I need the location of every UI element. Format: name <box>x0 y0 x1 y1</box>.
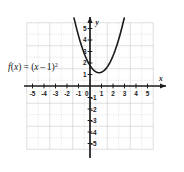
function-label-x2: x <box>33 61 39 72</box>
x-tick-label: -2 <box>64 90 70 97</box>
x-tick-label: 1 <box>100 90 104 97</box>
coordinate-plane-svg: -5 -4 -3 -2 -1 0 1 2 3 4 5 5 4 3 2 1 -1 … <box>0 0 184 172</box>
y-tick-label: -2 <box>91 106 97 113</box>
x-tick-label: -3 <box>53 90 59 97</box>
y-tick-label: -5 <box>91 140 97 147</box>
function-label-exponent: 2 <box>55 61 58 68</box>
y-tick-label: 5 <box>83 25 87 32</box>
function-label-close1: ) <box>18 61 21 73</box>
x-tick-label: 5 <box>146 90 150 97</box>
graph-figure: -5 -4 -3 -2 -1 0 1 2 3 4 5 5 4 3 2 1 -1 … <box>0 0 184 172</box>
x-tick-label: -1 <box>76 90 82 97</box>
x-tick-label: 2 <box>111 90 115 97</box>
function-label-equals: = <box>24 61 29 72</box>
function-label: f(x)=(x–1)2 <box>8 61 58 74</box>
x-axis-label: x <box>158 74 163 83</box>
y-tick-label: 2 <box>83 59 87 66</box>
y-tick-label: 4 <box>83 36 87 43</box>
y-axis-label: y <box>95 18 100 27</box>
function-label-minus: – <box>39 61 45 72</box>
y-tick-label: -3 <box>91 117 97 124</box>
y-tick-label: -1 <box>91 94 97 101</box>
y-tick-label: -4 <box>91 129 97 136</box>
x-tick-label: -5 <box>30 90 36 97</box>
x-tick-label: 4 <box>134 90 138 97</box>
x-tick-label: 3 <box>123 90 127 97</box>
y-tick-label: 1 <box>83 71 87 78</box>
origin-label: 0 <box>85 90 89 97</box>
x-tick-label: -4 <box>41 90 47 97</box>
